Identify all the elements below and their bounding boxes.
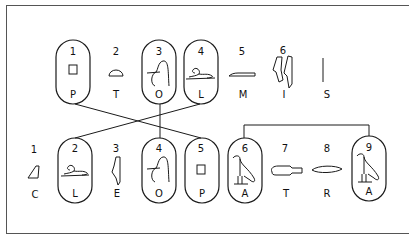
square-stool-icon	[197, 165, 205, 174]
item-letter: L	[198, 89, 204, 100]
bottom-row: 1 C 2 L 3 E 4 O 5 P	[28, 136, 386, 203]
bottom-item-2: 2 L	[58, 138, 92, 203]
bottom-item-8: 8 R	[312, 143, 342, 199]
item-letter: O	[155, 188, 163, 199]
item-number: 4	[156, 143, 162, 154]
item-number: 2	[72, 143, 78, 154]
vulture-icon	[357, 154, 379, 182]
item-letter: O	[155, 89, 163, 100]
item-letter: M	[239, 89, 248, 100]
lion-icon	[186, 68, 215, 79]
item-letter: A	[242, 188, 249, 199]
reed-leaf-icon	[112, 157, 120, 185]
item-number: 9	[366, 142, 372, 153]
item-number: 1	[31, 144, 37, 155]
lion-icon	[61, 165, 89, 176]
item-number: 7	[282, 143, 288, 154]
double-reed-icon	[284, 56, 292, 88]
top-item-5: 5 M	[229, 46, 255, 100]
lasso-rope-icon	[152, 157, 169, 182]
bottom-item-7: 7 T	[271, 143, 302, 199]
double-reed-icon	[273, 57, 283, 82]
item-number: 6	[280, 45, 286, 56]
rope-tie	[147, 168, 160, 169]
connector-lines	[75, 104, 369, 138]
top-item-6: 6 I	[273, 45, 292, 100]
mouth-icon	[312, 166, 342, 172]
rope-tie	[147, 72, 160, 73]
item-letter: L	[72, 188, 78, 199]
square-stool-icon	[69, 65, 77, 74]
top-item-s: S	[323, 58, 330, 100]
item-letter: A	[366, 186, 373, 197]
bottom-item-6: 6 A	[228, 138, 262, 203]
item-number: 8	[324, 143, 330, 154]
reed-mat-icon	[229, 73, 255, 76]
top-item-3: 3 O	[142, 40, 176, 104]
top-item-4: 4 L	[184, 40, 218, 104]
item-number: 5	[198, 143, 204, 154]
hand-icon	[271, 166, 302, 175]
item-number: 5	[239, 46, 245, 57]
hill-slope-icon	[28, 166, 39, 178]
bottom-item-9: 9 A	[352, 136, 386, 201]
vulture-icon	[233, 156, 255, 184]
top-item-2: 2 T	[109, 46, 123, 100]
item-number: 2	[113, 46, 119, 57]
bottom-item-4: 4 O	[142, 138, 176, 203]
connector-a6-to-a9-bracket	[244, 125, 369, 138]
item-number: 1	[70, 46, 76, 57]
item-number: 4	[198, 46, 204, 57]
item-letter: P	[199, 188, 205, 199]
lasso-rope-icon	[152, 61, 169, 86]
item-number: 3	[113, 143, 119, 154]
item-letter: C	[32, 189, 39, 200]
hieroglyph-diagram: 1 P 2 T 3 O 4 L 5 M	[0, 0, 415, 243]
item-letter: I	[283, 89, 286, 100]
bottom-item-3: 3 E	[112, 143, 120, 199]
bottom-item-5: 5 P	[185, 138, 219, 203]
item-letter: T	[112, 89, 120, 100]
item-letter: S	[324, 89, 330, 100]
top-item-1: 1 P	[56, 40, 90, 104]
top-row: 1 P 2 T 3 O 4 L 5 M	[56, 40, 330, 104]
item-number: 6	[242, 143, 248, 154]
item-letter: E	[114, 188, 120, 199]
item-letter: R	[324, 188, 331, 199]
item-letter: T	[282, 188, 290, 199]
item-number: 3	[156, 46, 162, 57]
bottom-item-1: 1 C	[28, 144, 39, 200]
bread-loaf-icon	[109, 70, 123, 76]
item-letter: P	[70, 89, 76, 100]
